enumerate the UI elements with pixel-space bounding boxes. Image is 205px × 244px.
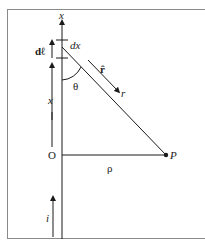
diagram-canvas: x dx dℓ x r̂ r θ O ρ P i [0,0,205,244]
point-p-dot [164,153,168,157]
label-dx: dx [70,39,81,51]
r-line [62,47,166,155]
label-origin: O [48,149,56,161]
label-r-hat: r̂ [100,63,105,75]
figure-frame [7,9,205,239]
label-rho: ρ [107,162,113,174]
label-current: i [46,212,49,224]
label-point-p: P [169,149,177,161]
label-r: r [121,87,126,99]
label-dl: dℓ [35,45,46,57]
theta-arc [62,67,81,80]
label-x-distance: x [47,94,53,106]
axis-label-x: x [58,9,64,21]
label-theta: θ [73,80,78,92]
